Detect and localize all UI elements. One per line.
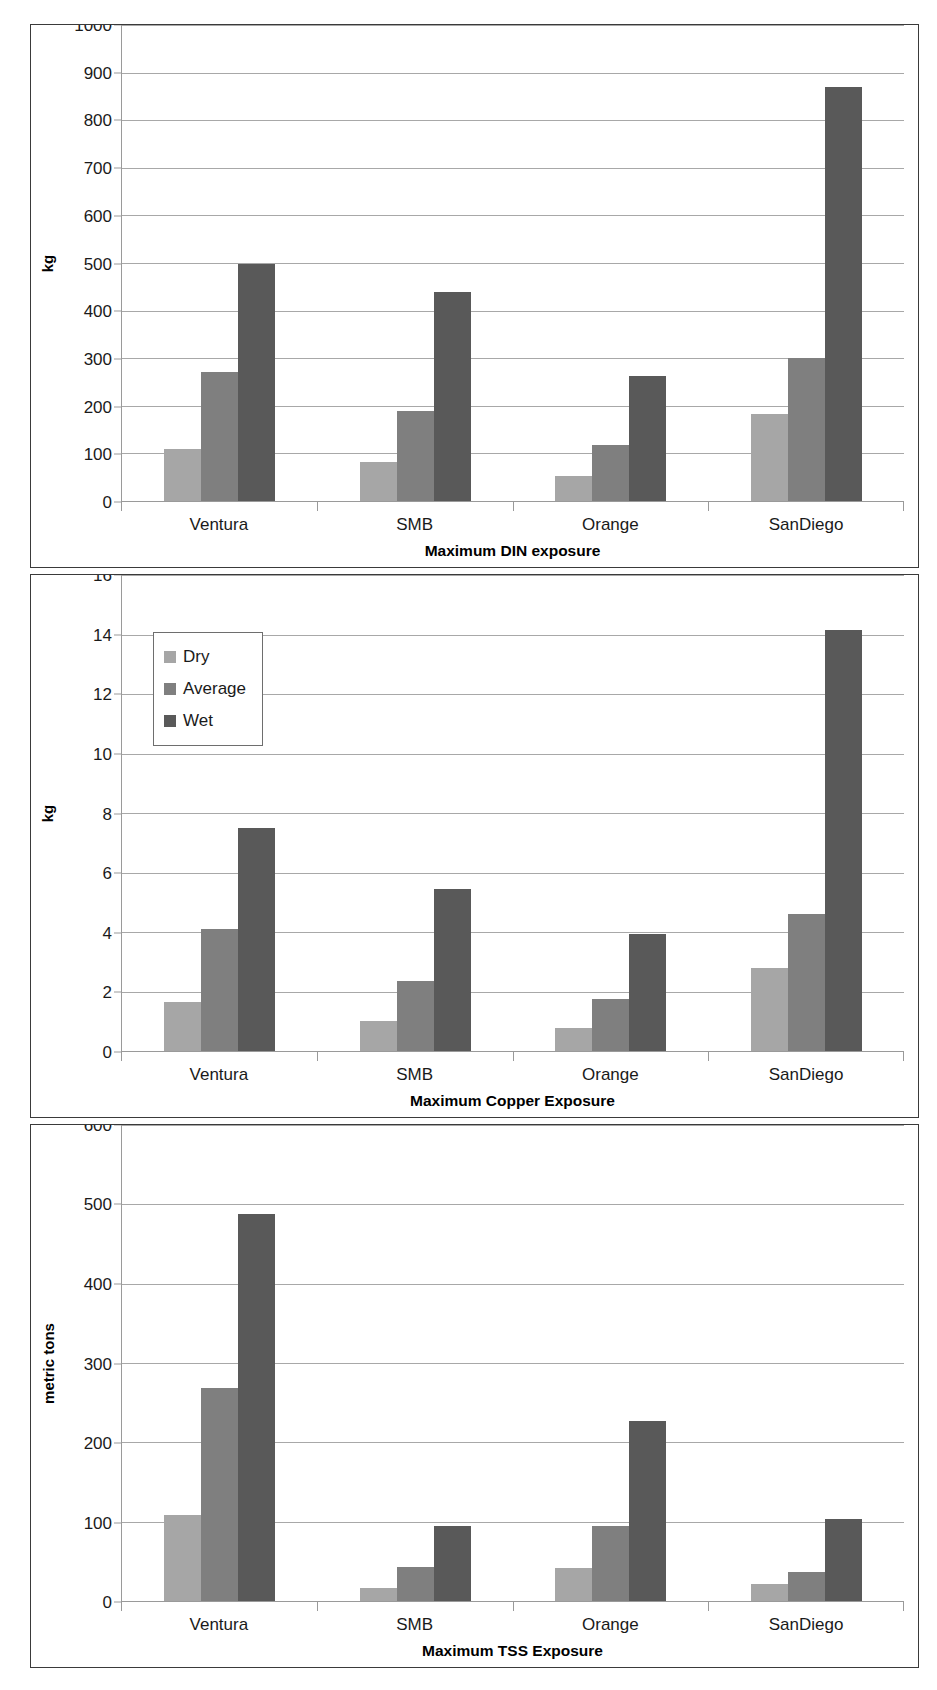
x-tick-band <box>121 1052 904 1061</box>
bar-wet[interactable] <box>825 630 862 1051</box>
bars-layer <box>122 1125 904 1601</box>
x-tick-spacer-right <box>904 1602 918 1611</box>
bar-average[interactable] <box>592 445 629 501</box>
y-axis-tick-mark <box>114 575 121 576</box>
bar-average[interactable] <box>397 981 434 1051</box>
x-tick-spacer-right <box>904 502 918 511</box>
bar-wet[interactable] <box>434 889 471 1051</box>
y-axis-tick-label: 1000 <box>74 24 112 34</box>
y-axis-tick-mark <box>114 168 121 169</box>
y-axis-label-text: kg <box>39 805 56 823</box>
bar-group-smb <box>318 575 514 1051</box>
bar-wet[interactable] <box>238 1214 275 1601</box>
y-axis-tick-mark <box>114 932 121 933</box>
legend-swatch-icon <box>164 715 176 727</box>
legend-item-wet[interactable]: Wet <box>164 705 246 737</box>
x-axis-tick-mark <box>121 1052 317 1061</box>
y-axis-tick-mark <box>114 1522 121 1523</box>
bar-dry[interactable] <box>751 414 788 501</box>
y-axis-label-text: metric tons <box>40 1323 57 1404</box>
bar-dry[interactable] <box>751 1584 788 1601</box>
bar-wet[interactable] <box>629 1421 666 1601</box>
bar-group-ventura <box>122 25 318 501</box>
legend-item-average[interactable]: Average <box>164 673 246 705</box>
y-axis-tick-mark <box>114 502 121 503</box>
plot-row: metric tons 0100200300400500600 <box>31 1125 918 1602</box>
x-axis-tick-mark <box>317 502 513 511</box>
y-axis-tick-mark <box>114 358 121 359</box>
bar-average[interactable] <box>592 999 629 1051</box>
y-axis-tick-mark <box>114 1125 121 1126</box>
y-axis-tick-mark <box>114 1442 121 1443</box>
y-axis-label: kg <box>31 575 65 1052</box>
bar-wet[interactable] <box>434 292 471 501</box>
bar-wet[interactable] <box>238 264 275 501</box>
bar-average[interactable] <box>397 411 434 501</box>
x-tick-row <box>31 1052 918 1061</box>
bar-average[interactable] <box>201 929 238 1051</box>
plot-wrapper: kg 01002003004005006007008009001000 Vent… <box>31 25 918 567</box>
bar-wet[interactable] <box>238 828 275 1051</box>
bar-dry[interactable] <box>360 1588 397 1601</box>
bar-wet[interactable] <box>629 376 666 501</box>
x-category-row: VenturaSMBOrangeSanDiego <box>31 1061 918 1091</box>
bar-dry[interactable] <box>164 1515 201 1601</box>
bar-dry[interactable] <box>555 476 592 501</box>
y-axis-tick-mark <box>114 694 121 695</box>
bar-wet[interactable] <box>629 934 666 1052</box>
x-axis-tick-mark <box>121 1602 317 1611</box>
bar-dry[interactable] <box>164 449 201 501</box>
bar-group-orange <box>513 575 709 1051</box>
x-axis-tick-mark <box>708 1602 904 1611</box>
bar-average[interactable] <box>201 372 238 501</box>
y-axis-tick-label: 200 <box>84 398 112 415</box>
x-category-spacer-right <box>904 1611 918 1641</box>
y-axis-tick-label: 400 <box>84 1275 112 1292</box>
bar-wet[interactable] <box>434 1526 471 1601</box>
plot-row: kg 01002003004005006007008009001000 <box>31 25 918 502</box>
legend-item-label: Average <box>183 679 246 699</box>
bar-dry[interactable] <box>751 968 788 1051</box>
bar-wet[interactable] <box>825 1519 862 1601</box>
bar-average[interactable] <box>201 1388 238 1601</box>
bar-group-sandiego <box>709 575 905 1051</box>
legend-item-dry[interactable]: Dry <box>164 641 246 673</box>
bar-average[interactable] <box>592 1526 629 1601</box>
bar-average[interactable] <box>788 1572 825 1601</box>
y-axis-tick-label: 300 <box>84 1355 112 1372</box>
bar-dry[interactable] <box>555 1028 592 1051</box>
bar-average[interactable] <box>788 914 825 1051</box>
y-axis-tick-mark <box>114 813 121 814</box>
bar-dry[interactable] <box>555 1568 592 1601</box>
bar-average[interactable] <box>788 358 825 501</box>
x-axis-title: Maximum DIN exposure <box>31 541 918 567</box>
bar-dry[interactable] <box>360 462 397 501</box>
x-tick-band <box>121 1602 904 1611</box>
y-axis-tick-label: 16 <box>93 574 112 584</box>
x-tick-row <box>31 502 918 511</box>
x-axis-tick-mark <box>317 1052 513 1061</box>
x-category-spacer-left <box>31 1061 121 1091</box>
bar-dry[interactable] <box>360 1021 397 1051</box>
chart-legend: DryAverageWet <box>153 632 263 746</box>
y-axis-tick-mark <box>114 120 121 121</box>
bar-average[interactable] <box>397 1567 434 1601</box>
y-axis-label: kg <box>31 25 65 502</box>
legend-swatch-icon <box>164 683 176 695</box>
x-category-band: VenturaSMBOrangeSanDiego <box>121 1061 904 1091</box>
y-axis-tick-mark <box>114 753 121 754</box>
x-axis-category-label: Orange <box>513 1061 709 1091</box>
y-axis-tick-label: 400 <box>84 303 112 320</box>
x-category-band: VenturaSMBOrangeSanDiego <box>121 511 904 541</box>
x-axis-category-label: SMB <box>317 1611 513 1641</box>
chart-panel-copper: kg 0246810121416 VenturaSMBOrangeSanDieg… <box>30 574 919 1118</box>
x-category-row: VenturaSMBOrangeSanDiego <box>31 511 918 541</box>
y-tick-column: 0246810121416 <box>65 575 121 1052</box>
bar-dry[interactable] <box>164 1002 201 1051</box>
x-axis-category-label: SMB <box>317 1061 513 1091</box>
y-axis-tick-mark <box>114 25 121 26</box>
x-tick-spacer-right <box>904 1052 918 1061</box>
y-axis-tick-mark <box>114 1204 121 1205</box>
bar-wet[interactable] <box>825 87 862 501</box>
x-category-spacer-left <box>31 1611 121 1641</box>
